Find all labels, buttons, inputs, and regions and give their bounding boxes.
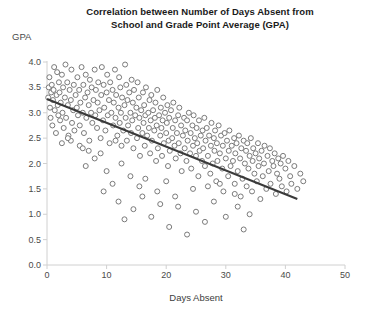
scatter-point	[194, 125, 199, 130]
scatter-point	[110, 87, 115, 92]
scatter-point	[232, 136, 237, 141]
scatter-point	[139, 108, 144, 113]
scatter-point	[92, 67, 97, 72]
scatter-point	[119, 143, 124, 148]
scatter-point	[227, 128, 232, 133]
scatter-point	[155, 146, 160, 151]
scatter-point	[262, 143, 267, 148]
scatter-point	[163, 110, 168, 115]
scatter-point	[103, 128, 108, 133]
scatter-point	[123, 115, 128, 120]
scatter-point	[177, 105, 182, 110]
scatter-point	[131, 207, 136, 212]
scatter-point	[154, 158, 159, 163]
scatter-point	[173, 156, 178, 161]
scatter-point	[202, 115, 207, 120]
scatter-point	[59, 72, 64, 77]
scatter-point	[68, 98, 73, 103]
scatter-point	[111, 100, 116, 105]
scatter-point	[275, 171, 280, 176]
scatter-point	[198, 133, 203, 138]
scatter-point	[137, 153, 142, 158]
scatter-point	[261, 161, 266, 166]
scatter-point	[136, 95, 141, 100]
scatter-point	[85, 90, 90, 95]
scatter-point	[148, 151, 153, 156]
scatter-point	[224, 138, 229, 143]
scatter-point	[288, 174, 293, 179]
scatter-point	[151, 108, 156, 113]
scatter-point	[101, 189, 106, 194]
scatter-point	[62, 95, 67, 100]
scatter-point	[79, 65, 84, 70]
scatter-point	[87, 138, 92, 143]
scatter-point	[153, 100, 158, 105]
scatter-point	[220, 143, 225, 148]
scatter-point	[241, 227, 246, 232]
scatter-point	[55, 70, 60, 75]
scatter-point	[126, 123, 131, 128]
scatter-point	[272, 151, 277, 156]
scatter-point	[119, 161, 124, 166]
scatter-point	[277, 176, 282, 181]
scatter-point	[86, 148, 91, 153]
scatter-point	[117, 120, 122, 125]
scatter-point	[173, 118, 178, 123]
scatter-point	[164, 131, 169, 136]
scatter-point	[137, 115, 142, 120]
scatter-point	[95, 125, 100, 130]
scatter-point	[158, 133, 163, 138]
scatter-point	[196, 118, 201, 123]
scatter-point	[236, 133, 241, 138]
scatter-point	[191, 113, 196, 118]
scatter-point	[223, 214, 228, 219]
scatter-point	[246, 166, 251, 171]
scatter-point	[244, 184, 249, 189]
scatter-point	[223, 156, 228, 161]
scatter-point	[213, 128, 218, 133]
scatter-point	[67, 87, 72, 92]
scatter-point	[209, 120, 214, 125]
scatter-point	[122, 217, 127, 222]
scatter-point	[98, 151, 103, 156]
scatter-point	[135, 80, 140, 85]
scatter-point	[216, 123, 221, 128]
scatter-point	[226, 174, 231, 179]
scatter-point	[195, 141, 200, 146]
scatter-point	[125, 98, 130, 103]
scatter-point	[77, 87, 82, 92]
scatter-point	[257, 156, 262, 161]
scatter-point	[201, 146, 206, 151]
scatter-point	[221, 189, 226, 194]
scatter-point	[99, 92, 104, 97]
scatter-point	[69, 67, 74, 72]
scatter-point	[182, 146, 187, 151]
scatter-point	[186, 110, 191, 115]
scatter-point	[159, 125, 164, 130]
scatter-point	[104, 90, 109, 95]
scatter-point	[250, 189, 255, 194]
scatter-point	[155, 87, 160, 92]
scatter-point	[203, 138, 208, 143]
scatter-point	[64, 115, 69, 120]
scatter-point	[142, 143, 147, 148]
scatter-point	[191, 186, 196, 191]
scatter-point	[202, 164, 207, 169]
scatter-point	[205, 153, 210, 158]
scatter-point	[106, 98, 111, 103]
scatter-point	[118, 110, 123, 115]
scatter-point	[93, 87, 98, 92]
scatter-point	[170, 125, 175, 130]
scatter-point	[238, 156, 243, 161]
scatter-point	[161, 95, 166, 100]
scatter-point	[167, 224, 172, 229]
scatter-point	[115, 133, 120, 138]
scatter-point	[158, 202, 163, 207]
scatter-point	[278, 161, 283, 166]
scatter-point	[130, 100, 135, 105]
scatter-point	[176, 204, 181, 209]
scatter-point	[205, 184, 210, 189]
scatter-point	[65, 136, 70, 141]
scatter-point	[160, 153, 165, 158]
scatter-point	[230, 158, 235, 163]
